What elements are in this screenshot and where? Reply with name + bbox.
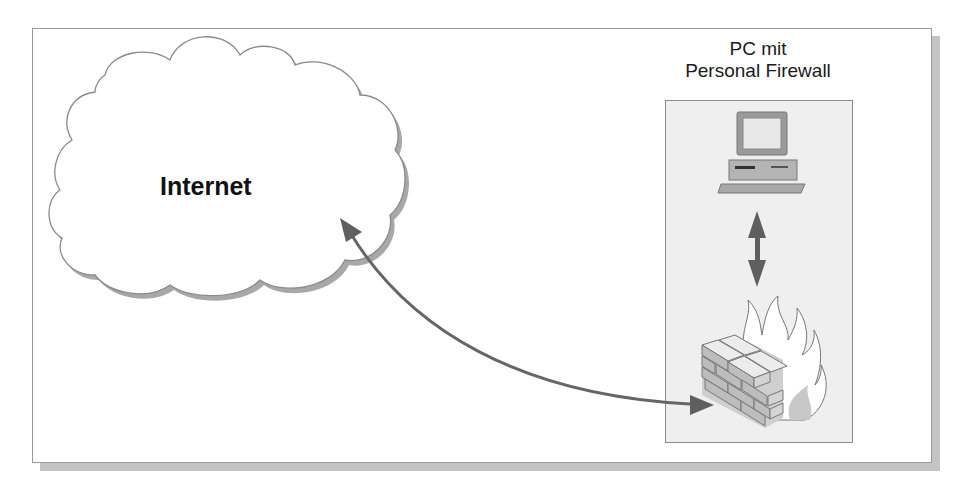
internet-firewall-arrow-icon xyxy=(0,0,965,494)
